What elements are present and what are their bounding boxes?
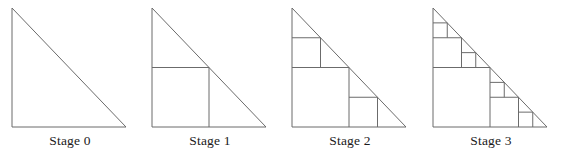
stage-2-diagram bbox=[280, 0, 420, 135]
stage-1-caption: Stage 1 bbox=[140, 133, 280, 149]
stage-3-caption: Stage 3 bbox=[421, 133, 561, 149]
stage-1-diagram bbox=[140, 0, 280, 135]
stage-panel-1: Stage 1 bbox=[140, 0, 280, 161]
inscribed-square-upper-level-2 bbox=[292, 38, 321, 68]
stage-panel-3: Stage 3 bbox=[421, 0, 561, 161]
inscribed-square-lower-level-2 bbox=[349, 97, 378, 127]
stage-0-diagram bbox=[0, 0, 140, 135]
recursive-squares-figure: Stage 0 Stage 1 bbox=[0, 0, 562, 161]
inscribed-square-lower-lower-level-3 bbox=[519, 112, 533, 127]
inscribed-square-upper-lower-level-3 bbox=[462, 53, 476, 68]
inscribed-square-level-1 bbox=[292, 68, 349, 128]
stage-panel-0: Stage 0 bbox=[0, 0, 140, 161]
triangle-outline-0 bbox=[12, 8, 126, 127]
inscribed-square-lower-upper-level-3 bbox=[490, 82, 504, 97]
inscribed-square-upper-upper-level-3 bbox=[433, 23, 447, 38]
inscribed-square-level-1 bbox=[433, 68, 490, 128]
inscribed-square-upper-level-2 bbox=[433, 38, 462, 68]
inscribed-square-lower-level-2 bbox=[490, 97, 519, 127]
stage-panel-2: Stage 2 bbox=[280, 0, 420, 161]
stage-0-caption: Stage 0 bbox=[0, 133, 140, 149]
stage-2-caption: Stage 2 bbox=[280, 133, 420, 149]
stage-3-diagram bbox=[421, 0, 561, 135]
inscribed-square-level-1 bbox=[152, 68, 209, 128]
